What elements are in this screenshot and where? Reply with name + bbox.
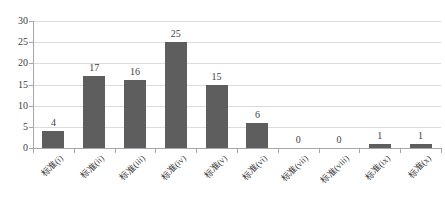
- bar-value-label: 17: [79, 62, 109, 73]
- bar-value-label: 4: [38, 117, 68, 128]
- bar: [83, 76, 105, 148]
- bar: [42, 131, 64, 148]
- bar: [369, 144, 391, 148]
- bar: [410, 144, 432, 148]
- x-axis-tick: [278, 149, 279, 153]
- bar-value-label: 6: [242, 109, 272, 120]
- bar-value-label: 0: [324, 134, 354, 145]
- y-axis-line: [33, 21, 34, 148]
- y-axis-tick-label: 25: [0, 36, 28, 48]
- x-axis-tick: [115, 149, 116, 153]
- x-axis-tick: [441, 149, 442, 153]
- x-axis-tick: [237, 149, 238, 153]
- y-gridline: [33, 42, 441, 43]
- x-axis-tick: [319, 149, 320, 153]
- bar-value-label: 1: [406, 130, 436, 141]
- y-gridline: [33, 21, 441, 22]
- y-axis-tick-label: 0: [0, 142, 28, 154]
- bar: [165, 42, 187, 148]
- bar-value-label: 1: [365, 130, 395, 141]
- y-axis-tick-label: 5: [0, 121, 28, 133]
- x-axis-tick: [74, 149, 75, 153]
- bar-value-label: 25: [161, 28, 191, 39]
- bar: [124, 80, 146, 148]
- x-axis-tick: [33, 149, 34, 153]
- y-axis-tick-label: 10: [0, 100, 28, 112]
- bar-value-label: 16: [120, 66, 150, 77]
- x-axis-tick: [400, 149, 401, 153]
- y-axis-tick-label: 20: [0, 57, 28, 69]
- bar: [246, 123, 268, 148]
- bar-chart: 0510152025304标准(i)17标准(ii)16标准(iii)25标准(…: [0, 0, 445, 198]
- bar-value-label: 15: [202, 71, 232, 82]
- bar: [206, 85, 228, 149]
- x-axis-category-label: 标准(i): [2, 153, 66, 198]
- bar-value-label: 0: [283, 134, 313, 145]
- x-axis-tick: [196, 149, 197, 153]
- y-axis-tick-label: 15: [0, 79, 28, 91]
- x-axis-tick: [155, 149, 156, 153]
- x-axis-tick: [359, 149, 360, 153]
- y-axis-tick-label: 30: [0, 15, 28, 27]
